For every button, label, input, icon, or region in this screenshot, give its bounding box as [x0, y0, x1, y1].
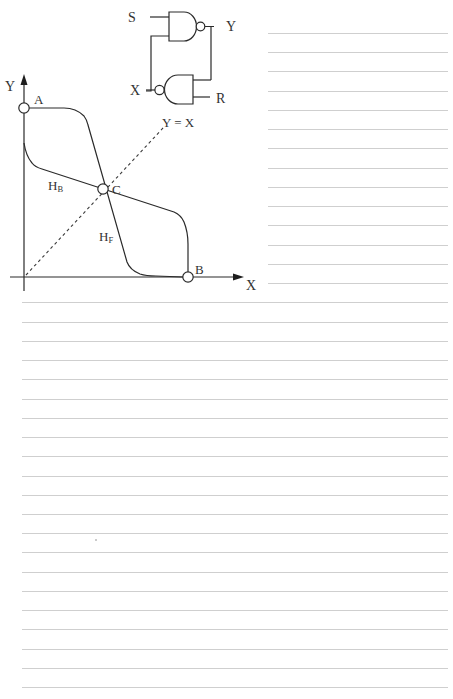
- label-hf: HF: [99, 229, 113, 245]
- label-point-b: B: [195, 262, 204, 277]
- label-point-c: C: [112, 182, 121, 197]
- label-x-output: X: [130, 83, 140, 98]
- label-diagonal: Y = X: [162, 115, 195, 130]
- x-axis-arrow-icon: [233, 274, 244, 281]
- point-b-marker: [183, 272, 193, 282]
- notebook-page: S Y X R Y X A B C: [0, 0, 453, 699]
- latch-circuit: S Y X R: [128, 10, 236, 106]
- label-s: S: [128, 10, 136, 25]
- bottom-gate-bubble-icon: [155, 85, 164, 94]
- point-c-marker: [98, 184, 108, 194]
- point-a-marker: [19, 103, 29, 113]
- top-nand-gate-icon: [169, 12, 196, 41]
- stray-mark: [95, 539, 97, 541]
- y-axis-arrow-icon: [21, 74, 28, 85]
- curve-hb: [24, 143, 188, 272]
- axis-label-y: Y: [5, 79, 15, 94]
- label-hb: HB: [48, 178, 63, 194]
- label-r: R: [216, 91, 226, 106]
- top-gate-bubble-icon: [196, 22, 205, 31]
- y-output-wire: [205, 27, 214, 81]
- sr-latch-diagram: S Y X R Y X A B C: [0, 0, 453, 699]
- bottom-nand-gate-icon: [165, 75, 194, 104]
- label-y-output: Y: [226, 19, 236, 34]
- axis-label-x: X: [246, 278, 256, 293]
- label-point-a: A: [34, 92, 44, 107]
- transfer-graph: Y X A B C Y = X HB HF: [5, 74, 256, 293]
